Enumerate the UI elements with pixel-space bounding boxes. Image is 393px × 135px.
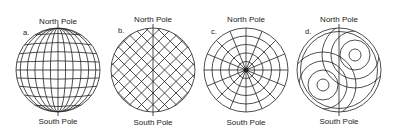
panel-a-tag: a. [23,28,29,37]
panel-c-globe [204,28,288,112]
panel-c-north-label: North Pole [227,15,265,24]
panel-b-tag: b. [118,26,124,35]
panel-b-outline [111,24,195,116]
panel-a-south-label: South Pole [38,117,77,126]
panel-c-tag: c. [211,27,217,36]
panel-b-north-label: North Pole [134,15,172,24]
panel-d-north-label: North Pole [320,15,358,24]
panel-a-north-label: North Pole [39,17,77,26]
panel-d-tag: d. [305,27,311,36]
panel-d-south-label: South Pole [319,117,358,126]
panel-d-outline [297,24,381,116]
panel-b-south-label: South Pole [133,118,172,127]
diagram-stage: North Pole a. South Pole North Pole b. S… [0,0,393,135]
panel-c-south-label: South Pole [226,118,265,127]
